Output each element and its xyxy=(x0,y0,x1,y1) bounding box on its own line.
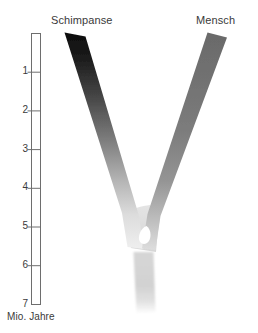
branch-schimpanse-shape xyxy=(65,33,144,250)
branch-mensch xyxy=(142,33,227,251)
branch-schimpanse xyxy=(65,33,144,250)
branch-mensch-shape xyxy=(142,33,227,251)
stem-shape xyxy=(134,252,156,314)
diagram-canvas xyxy=(0,0,258,333)
branch-stem xyxy=(134,252,156,314)
scale-bar-outline xyxy=(32,34,41,305)
divergence-diagram: Schimpanse Mensch Mio. Jahre 1234567 xyxy=(0,0,258,333)
time-scale-bar xyxy=(28,34,41,305)
